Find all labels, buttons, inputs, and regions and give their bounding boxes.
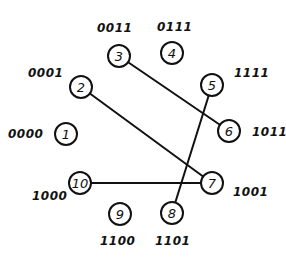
node-number: 7 [208, 176, 217, 191]
binary-code-label-9: 1100 [100, 234, 135, 248]
node-3: 3 [108, 45, 130, 67]
binary-code-circle-diagram: 12345678910 0000000100110111111110111001… [0, 0, 286, 262]
edge-5-8 [172, 85, 212, 213]
binary-code-label-3: 0011 [97, 21, 132, 35]
node-number: 5 [208, 78, 216, 93]
node-8: 8 [161, 202, 183, 224]
binary-code-label-10: 1000 [32, 189, 67, 203]
binary-code-label-7: 1001 [233, 185, 268, 199]
node-9: 9 [109, 203, 131, 225]
node-number: 2 [77, 80, 85, 95]
edge-2-7 [81, 87, 212, 183]
node-5: 5 [201, 74, 223, 96]
node-number: 8 [168, 206, 176, 221]
node-4: 4 [161, 42, 183, 64]
node-7: 7 [201, 172, 223, 194]
node-6: 6 [218, 120, 240, 142]
node-number: 1 [62, 127, 70, 142]
node-1: 1 [55, 123, 77, 145]
binary-code-label-1: 0000 [8, 127, 43, 141]
node-number: 3 [115, 49, 123, 64]
binary-code-label-2: 0001 [28, 66, 63, 80]
binary-code-label-6: 1011 [252, 125, 286, 139]
node-10: 10 [69, 172, 91, 194]
node-number: 10 [72, 176, 89, 191]
binary-code-label-4: 0111 [157, 20, 192, 34]
node-number: 9 [116, 207, 124, 222]
binary-code-label-8: 1101 [155, 234, 190, 248]
binary-code-label-5: 1111 [234, 66, 269, 80]
node-number: 6 [225, 124, 233, 139]
node-2: 2 [70, 76, 92, 98]
node-number: 4 [168, 46, 176, 61]
code-labels-layer: 0000000100110111111110111001110111001000 [8, 20, 286, 248]
nodes-layer: 12345678910 [55, 42, 240, 225]
